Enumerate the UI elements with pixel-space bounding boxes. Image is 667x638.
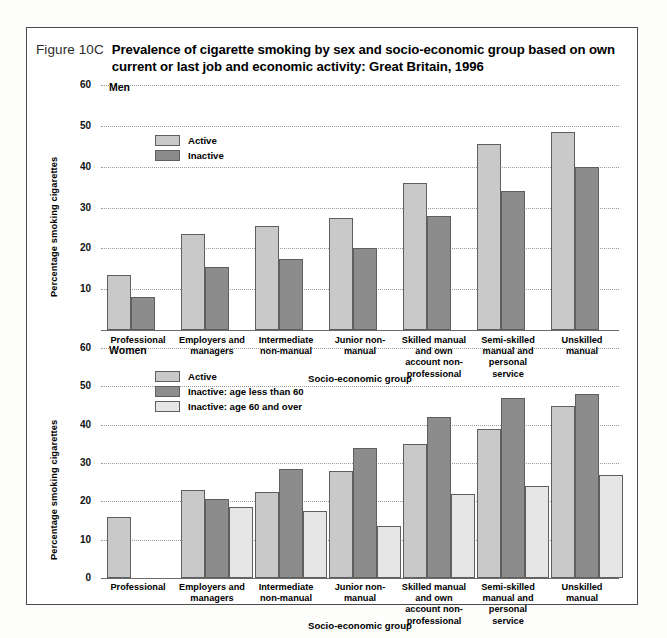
bar bbox=[353, 248, 377, 330]
bar bbox=[427, 216, 451, 330]
bar-group bbox=[471, 348, 545, 578]
y-axis-tick-label: 60 bbox=[61, 79, 91, 90]
women-chart: Women Percentage smoking cigarettes 0102… bbox=[27, 348, 639, 606]
bar bbox=[181, 490, 205, 578]
legend-item: Active bbox=[155, 134, 224, 147]
bar-group bbox=[249, 85, 323, 330]
bar bbox=[107, 517, 131, 578]
x-axis-category-label: Semi-skilled manual and personal service bbox=[471, 582, 545, 627]
x-axis-category-label: Junior non-manual bbox=[323, 582, 397, 627]
legend-swatch-active bbox=[155, 371, 180, 382]
bar bbox=[427, 417, 451, 578]
bar bbox=[181, 234, 205, 330]
figure-page: Figure 10C Prevalence of cigarette smoki… bbox=[0, 0, 667, 638]
women-x-axis-labels: ProfessionalEmployers and managersInterm… bbox=[101, 582, 619, 627]
bar-group bbox=[101, 85, 175, 330]
men-chart: Men Percentage smoking cigarettes 102030… bbox=[27, 85, 639, 359]
bar-group bbox=[545, 85, 619, 330]
y-axis-tick-label: 60 bbox=[61, 342, 91, 353]
bar bbox=[255, 492, 279, 578]
bar-group bbox=[397, 348, 471, 578]
legend-item: Inactive bbox=[155, 149, 224, 162]
legend-item: Active bbox=[155, 370, 304, 383]
bar-groups bbox=[101, 85, 619, 330]
y-axis-tick-label: 20 bbox=[61, 495, 91, 506]
bar bbox=[329, 471, 353, 578]
y-axis-tick-label: 50 bbox=[61, 120, 91, 131]
women-y-axis-label: Percentage smoking cigarettes bbox=[49, 420, 59, 560]
y-axis-tick-label: 50 bbox=[61, 380, 91, 391]
x-axis-category-label: Employers and managers bbox=[175, 582, 249, 627]
legend-swatch-inactive bbox=[155, 386, 180, 397]
y-axis-tick-label: 0 bbox=[61, 572, 91, 583]
legend-item: Inactive: age 60 and over bbox=[155, 400, 304, 413]
bar bbox=[551, 132, 575, 330]
bar bbox=[575, 167, 599, 330]
bar bbox=[205, 267, 229, 330]
bar bbox=[551, 406, 575, 579]
y-axis-tick-label: 30 bbox=[61, 202, 91, 213]
x-axis-line bbox=[101, 330, 619, 331]
bar-group bbox=[323, 348, 397, 578]
y-axis-tick-label: 20 bbox=[61, 242, 91, 253]
bar-group bbox=[545, 348, 619, 578]
men-panel-label: Men bbox=[109, 81, 130, 93]
bar bbox=[477, 144, 501, 330]
bar bbox=[279, 469, 303, 578]
legend-swatch-inactive bbox=[155, 150, 180, 161]
legend-swatch-inactive60 bbox=[155, 401, 180, 412]
bar bbox=[353, 448, 377, 578]
figure-frame: Figure 10C Prevalence of cigarette smoki… bbox=[26, 27, 638, 605]
x-axis-line bbox=[101, 578, 619, 579]
x-axis-category-label: Skilled manual and own account non-profe… bbox=[397, 582, 471, 627]
bar bbox=[403, 183, 427, 330]
legend-label: Inactive: age 60 and over bbox=[188, 401, 302, 412]
women-legend: ActiveInactive: age less than 60Inactive… bbox=[155, 370, 304, 415]
page-title: Prevalence of cigarette smoking by sex a… bbox=[112, 42, 632, 75]
bar bbox=[501, 191, 525, 330]
legend-label: Inactive: age less than 60 bbox=[188, 386, 304, 397]
figure-title-row: Figure 10C Prevalence of cigarette smoki… bbox=[36, 42, 632, 75]
y-axis-tick-label: 30 bbox=[61, 457, 91, 468]
y-axis-tick-label: 40 bbox=[61, 419, 91, 430]
women-panel-label: Women bbox=[109, 344, 147, 356]
bar-group bbox=[397, 85, 471, 330]
legend-label: Inactive bbox=[188, 150, 224, 161]
legend-label: Active bbox=[188, 371, 217, 382]
bar bbox=[575, 394, 599, 578]
x-axis-category-label: Intermediate non-manual bbox=[249, 582, 323, 627]
bar-group bbox=[323, 85, 397, 330]
bar bbox=[599, 475, 623, 579]
bar bbox=[107, 275, 131, 330]
legend-swatch-active bbox=[155, 135, 180, 146]
x-axis-category-label: Professional bbox=[101, 582, 175, 627]
y-axis-tick-label: 10 bbox=[61, 534, 91, 545]
bar-group bbox=[471, 85, 545, 330]
bar bbox=[255, 226, 279, 330]
men-plot-area: 102030405060 bbox=[101, 85, 619, 330]
bar-group bbox=[175, 85, 249, 330]
x-axis-category-label: Unskilled manual bbox=[545, 582, 619, 627]
bar bbox=[501, 398, 525, 578]
legend-item: Inactive: age less than 60 bbox=[155, 385, 304, 398]
bar bbox=[329, 218, 353, 330]
y-axis-tick-label: 10 bbox=[61, 283, 91, 294]
bar bbox=[205, 499, 229, 578]
men-legend: ActiveInactive bbox=[155, 134, 224, 164]
men-y-axis-label: Percentage smoking cigarettes bbox=[49, 157, 59, 297]
y-axis-tick-label: 40 bbox=[61, 161, 91, 172]
figure-number: Figure 10C bbox=[36, 42, 112, 57]
legend-label: Active bbox=[188, 135, 217, 146]
bar bbox=[279, 259, 303, 330]
bar bbox=[403, 444, 427, 578]
bar bbox=[131, 297, 155, 330]
bar bbox=[477, 429, 501, 579]
